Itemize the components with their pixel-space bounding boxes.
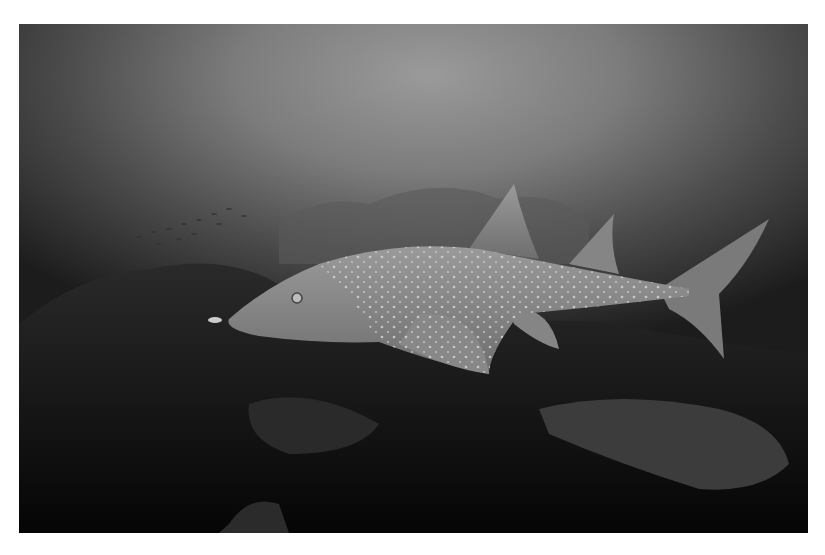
underwater-photo — [19, 24, 808, 533]
photo-scene — [19, 24, 808, 533]
small-fish — [208, 317, 222, 323]
eye — [292, 293, 302, 303]
fish-school — [136, 208, 247, 245]
